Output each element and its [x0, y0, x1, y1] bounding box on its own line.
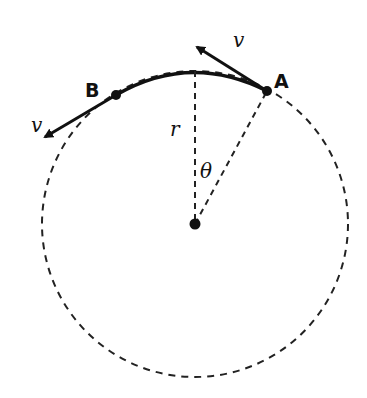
point-B-label: B: [85, 79, 99, 101]
velocity-label-B: v: [31, 113, 43, 137]
angle-label: θ: [200, 159, 212, 183]
velocity-label-A: v: [233, 28, 245, 52]
point-A-label: A: [274, 70, 289, 92]
velocity-arrow-A: [197, 47, 267, 91]
radius-line-to-A: [195, 91, 267, 224]
point-A-dot: [262, 86, 272, 96]
point-B-dot: [111, 90, 121, 100]
radius-label: r: [170, 117, 181, 141]
velocity-arrow-B: [45, 95, 116, 137]
circular-motion-diagram: A B v v r θ: [0, 0, 367, 398]
center-dot: [190, 219, 201, 230]
